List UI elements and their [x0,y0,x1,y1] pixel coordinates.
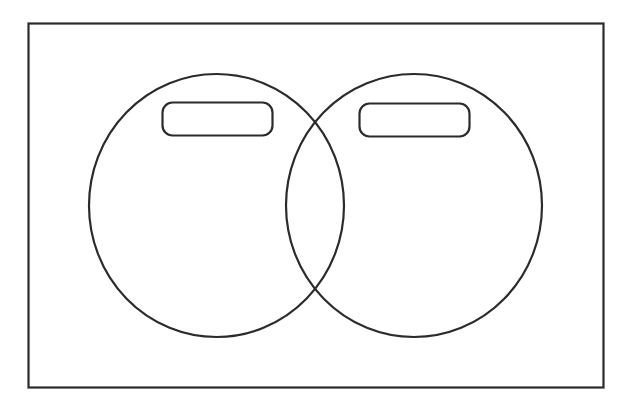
set-b-label-box[interactable] [360,104,470,137]
set-a-label-box[interactable] [163,103,273,136]
universe-rectangle [29,24,604,388]
venn-diagram [0,0,629,403]
